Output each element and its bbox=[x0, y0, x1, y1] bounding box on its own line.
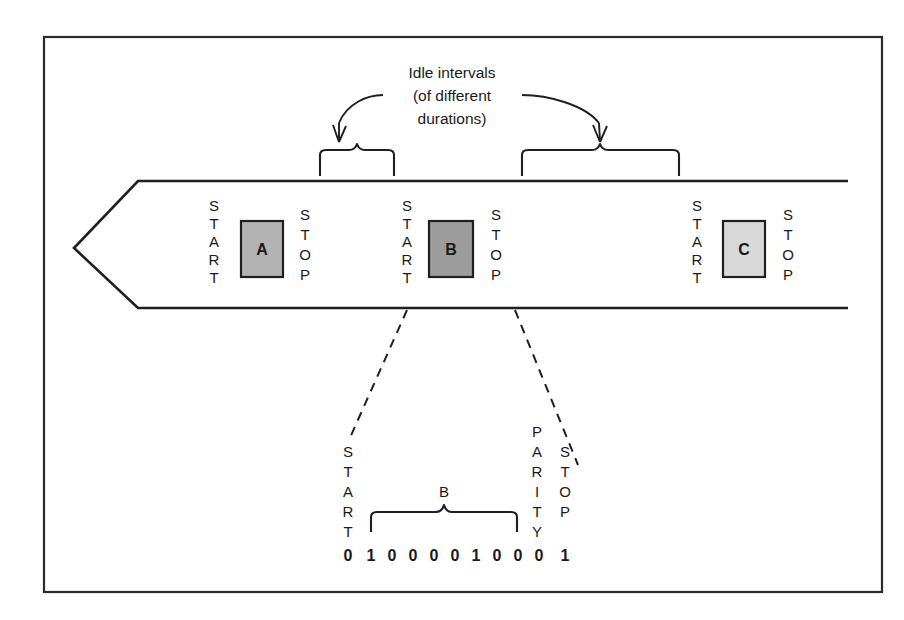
detail-bit-4: 0 bbox=[430, 547, 439, 564]
char-b-stop-char-2: O bbox=[490, 246, 502, 263]
char-b-start-char-3: R bbox=[402, 251, 413, 268]
detail-data-brace-label: B bbox=[439, 483, 449, 500]
char-c-start-char-0: S bbox=[692, 197, 702, 214]
char-b-start-char-0: S bbox=[402, 197, 412, 214]
detail-parity-char-3: I bbox=[535, 483, 539, 500]
char-c-group: S T A R T C S T O P bbox=[692, 197, 794, 286]
detail-stop-char-1: T bbox=[560, 463, 569, 480]
char-a-start-char-0: S bbox=[209, 197, 219, 214]
char-c-stop-char-0: S bbox=[783, 206, 793, 223]
detail-bit-10: 1 bbox=[561, 547, 570, 564]
char-c-start-char-2: A bbox=[692, 233, 702, 250]
detail-bit-1: 1 bbox=[367, 547, 376, 564]
char-a-stop-label: S T O P bbox=[299, 206, 311, 283]
char-c-stop-char-3: P bbox=[783, 266, 793, 283]
detail-start-label: S T A R T bbox=[343, 443, 354, 540]
detail-bit-8: 0 bbox=[514, 547, 523, 564]
char-a-letter: A bbox=[256, 241, 268, 258]
detail-start-char-1: T bbox=[343, 463, 352, 480]
char-b-start-label: S T A R T bbox=[402, 197, 413, 286]
detail-bit-2: 0 bbox=[388, 547, 397, 564]
idle-interval-2-brace bbox=[522, 144, 679, 176]
detail-start-char-4: T bbox=[343, 523, 352, 540]
figure-root: Idle intervals (of different durations) bbox=[0, 0, 904, 620]
detail-stop-label: S T O P bbox=[559, 443, 571, 520]
char-a-start-char-4: T bbox=[209, 269, 218, 286]
expansion-line-right bbox=[515, 310, 578, 465]
char-b-start-char-2: A bbox=[402, 233, 412, 250]
detail-data-brace: B bbox=[371, 483, 517, 532]
detail-parity-char-4: T bbox=[532, 503, 541, 520]
char-a-stop-char-1: T bbox=[300, 226, 309, 243]
detail-parity-char-2: R bbox=[532, 463, 543, 480]
char-a-group: S T A R T A S T O P bbox=[209, 197, 311, 286]
idle-interval-1-brace bbox=[320, 144, 394, 176]
char-b-group: S T A R T B S T O P bbox=[402, 197, 502, 286]
detail-bit-7: 0 bbox=[493, 547, 502, 564]
char-b-letter: B bbox=[445, 241, 457, 258]
detail-start-char-2: A bbox=[343, 483, 353, 500]
detail-start-char-3: R bbox=[343, 503, 354, 520]
char-c-letter: C bbox=[738, 241, 750, 258]
char-c-start-char-3: R bbox=[692, 251, 703, 268]
idle-intervals-annotation: Idle intervals (of different durations) bbox=[408, 64, 495, 127]
detail-bit-5: 0 bbox=[451, 547, 460, 564]
detail-parity-char-1: A bbox=[532, 443, 542, 460]
char-b-stop-label: S T O P bbox=[490, 206, 502, 283]
annotation-line-1: Idle intervals bbox=[408, 64, 495, 81]
char-b-stop-char-1: T bbox=[491, 226, 500, 243]
expansion-callout-lines bbox=[349, 310, 578, 465]
char-c-stop-char-2: O bbox=[782, 246, 794, 263]
char-a-start-char-3: R bbox=[209, 251, 220, 268]
detail-bit-row: 0 1 0 0 0 0 1 0 0 0 1 bbox=[344, 547, 570, 564]
detail-parity-label: P A R I T Y bbox=[532, 423, 543, 540]
expansion-line-left bbox=[349, 310, 407, 440]
char-c-start-label: S T A R T bbox=[692, 197, 703, 286]
detail-start-char-0: S bbox=[343, 443, 353, 460]
char-a-stop-char-0: S bbox=[300, 206, 310, 223]
detail-stop-char-0: S bbox=[560, 443, 570, 460]
char-b-stop-char-3: P bbox=[491, 266, 501, 283]
detail-parity-char-0: P bbox=[532, 423, 542, 440]
char-c-stop-label: S T O P bbox=[782, 206, 794, 283]
char-a-start-char-2: A bbox=[209, 233, 219, 250]
annotation-arrow-left bbox=[333, 95, 383, 142]
char-b-start-char-4: T bbox=[402, 269, 411, 286]
char-b-stop-char-0: S bbox=[491, 206, 501, 223]
detail-stop-char-3: P bbox=[560, 503, 570, 520]
char-a-start-char-1: T bbox=[209, 215, 218, 232]
figure-canvas: Idle intervals (of different durations) bbox=[0, 0, 904, 620]
detail-bit-6: 1 bbox=[472, 547, 481, 564]
detail-bit-3: 0 bbox=[409, 547, 418, 564]
detail-stop-char-2: O bbox=[559, 483, 571, 500]
annotation-line-3: durations) bbox=[418, 110, 487, 127]
char-c-start-char-1: T bbox=[692, 215, 701, 232]
detail-bit-9: 0 bbox=[535, 547, 544, 564]
char-a-start-label: S T A R T bbox=[209, 197, 220, 286]
annotation-line-2: (of different bbox=[413, 87, 492, 104]
char-c-stop-char-1: T bbox=[783, 226, 792, 243]
annotation-arrow-right bbox=[522, 95, 607, 142]
char-a-stop-char-3: P bbox=[300, 266, 310, 283]
detail-bit-0: 0 bbox=[344, 547, 353, 564]
char-a-stop-char-2: O bbox=[299, 246, 311, 263]
char-b-start-char-1: T bbox=[402, 215, 411, 232]
char-c-start-char-4: T bbox=[692, 269, 701, 286]
detail-parity-char-5: Y bbox=[532, 523, 542, 540]
